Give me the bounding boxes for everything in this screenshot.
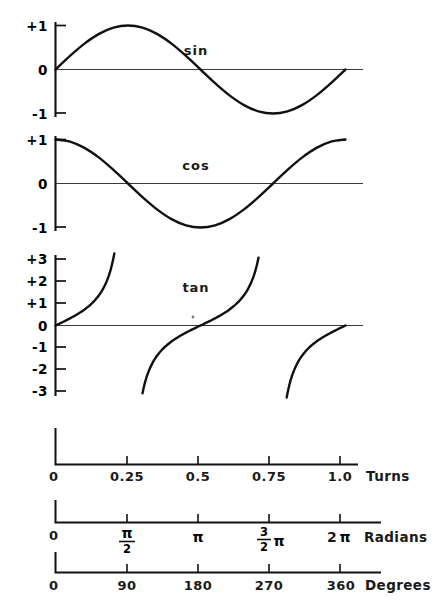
tan-ytick-label-plus1: +1 xyxy=(26,295,48,311)
scale-turns: 0 0.25 0.5 0.75 1.0 Turns xyxy=(49,428,410,484)
radians-three-half-denominator: 2 xyxy=(260,540,268,554)
scale-degrees: 0 90 180 270 360 Degrees xyxy=(49,552,431,593)
cos-ytick-label-plus1: +1 xyxy=(26,132,48,148)
radians-axis-name: Radians xyxy=(364,529,427,545)
degrees-label-270: 270 xyxy=(255,578,284,593)
panel-tan: tan +3 +2 +1 0 -1 -2 -3 xyxy=(26,251,363,399)
sin-ytick-label-zero: 0 xyxy=(38,62,48,78)
tan-ytick-label-minus3: -3 xyxy=(32,383,48,399)
radians-three-half-numerator: 3 xyxy=(260,525,268,539)
radians-two-pi-coefficient: 2 xyxy=(327,529,337,545)
tan-branch-3 xyxy=(287,326,346,398)
sin-ytick-label-minus1: -1 xyxy=(32,106,48,122)
cos-ytick-label-minus1: -1 xyxy=(32,220,48,236)
sin-label: sin xyxy=(184,43,208,58)
turns-label-025: 0.25 xyxy=(110,469,144,484)
turns-axis-line xyxy=(56,428,359,465)
turns-label-05: 0.5 xyxy=(186,469,211,484)
degrees-axis-line xyxy=(56,552,382,573)
turns-label-10: 1.0 xyxy=(328,469,353,484)
radians-three-half-pi-glyph: π xyxy=(273,533,284,549)
degrees-label-0: 0 xyxy=(49,578,59,593)
radians-label-three-half-pi: 3 2 π xyxy=(257,525,285,554)
paper-speck xyxy=(192,316,195,319)
degrees-label-360: 360 xyxy=(327,578,356,593)
radians-axis-line xyxy=(56,500,382,523)
trig-figure: sin +1 0 -1 cos +1 0 -1 tan +3 xyxy=(0,0,441,606)
tan-ytick-label-minus1: -1 xyxy=(32,339,48,355)
radians-label-half-pi: π 2 xyxy=(119,525,135,556)
radians-label-pi: π xyxy=(192,529,203,545)
turns-label-075: 0.75 xyxy=(252,469,286,484)
degrees-axis-name: Degrees xyxy=(365,577,431,593)
sin-ytick-label-plus1: +1 xyxy=(26,18,48,34)
panel-cos: cos +1 0 -1 xyxy=(26,132,363,236)
radians-label-two-pi: 2 π xyxy=(327,529,351,545)
degrees-label-180: 180 xyxy=(184,578,213,593)
cos-ytick-label-zero: 0 xyxy=(38,176,48,192)
radians-half-pi-numerator: π xyxy=(121,525,132,541)
tan-label: tan xyxy=(182,280,209,295)
tan-ytick-label-minus2: -2 xyxy=(32,361,48,377)
tan-branch-1 xyxy=(56,254,115,326)
radians-half-pi-denominator: 2 xyxy=(123,542,131,556)
turns-axis-name: Turns xyxy=(366,468,410,484)
cos-label: cos xyxy=(182,158,209,173)
panel-sin: sin +1 0 -1 xyxy=(26,18,363,122)
degrees-label-90: 90 xyxy=(117,578,136,593)
radians-two-pi-glyph: π xyxy=(339,529,350,545)
tan-ytick-label-plus3: +3 xyxy=(26,251,48,267)
tan-ytick-label-zero: 0 xyxy=(38,318,48,334)
scale-radians: 0 π 2 π 3 2 π 2 π Radians xyxy=(49,500,427,556)
radians-label-0: 0 xyxy=(49,528,59,543)
turns-label-0: 0 xyxy=(49,469,59,484)
tan-ytick-label-plus2: +2 xyxy=(26,273,48,289)
